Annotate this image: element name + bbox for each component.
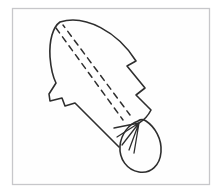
diagram-canvas [0,0,222,193]
screenshot-stage [0,0,222,193]
